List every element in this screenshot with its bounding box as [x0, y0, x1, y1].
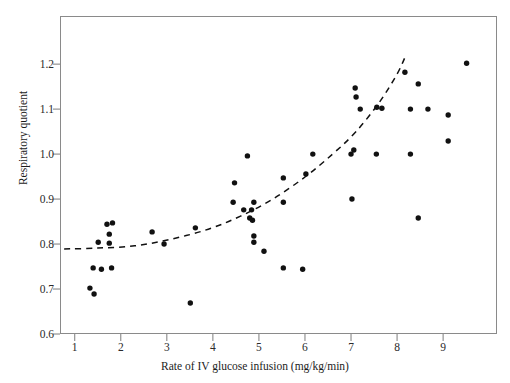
y-tick-label: 0.6: [20, 328, 54, 340]
y-tick-label: 0.8: [20, 238, 54, 250]
x-tick-label: 3: [152, 341, 182, 353]
x-tick-label: 6: [290, 341, 320, 353]
x-tick-label: 8: [382, 341, 412, 353]
x-axis-ticks: [75, 334, 443, 341]
y-tick-label: 0.7: [20, 283, 54, 295]
plot-frame: [60, 16, 497, 334]
y-axis-ticks: [53, 64, 60, 334]
x-tick-label: 9: [428, 341, 458, 353]
x-axis-title: Rate of IV glucose infusion (mg/kg/min): [0, 360, 510, 372]
x-tick-label: 5: [244, 341, 274, 353]
x-tick-label: 1: [60, 341, 90, 353]
figure-container: 0.60.70.80.91.01.11.2 123456789 Respirat…: [0, 0, 510, 383]
x-tick-label: 4: [198, 341, 228, 353]
y-axis-title: Respiratory quotient: [17, 58, 29, 218]
x-tick-label: 7: [336, 341, 366, 353]
x-tick-label: 2: [106, 341, 136, 353]
x-tick-label-group: 123456789: [0, 341, 510, 361]
